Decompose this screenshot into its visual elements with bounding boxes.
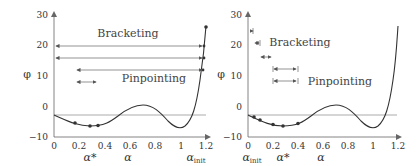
x-axis-arrow-icon <box>396 134 402 140</box>
marker <box>258 118 262 122</box>
alpha-star-label: α* <box>84 151 97 164</box>
bracketing-label: Bracketing <box>269 36 330 49</box>
y-axis-label: φ <box>217 68 225 81</box>
xtick: 0.4 <box>98 141 113 151</box>
marker <box>88 124 92 128</box>
right-chart: 30 20 10 0 −10 0 0.2 0.4 0.6 0.8 1 1.2 φ… <box>217 10 405 165</box>
ytick: 30 <box>37 10 49 20</box>
xtick: 0.6 <box>316 141 331 151</box>
marker <box>204 25 208 29</box>
xtick: 1 <box>178 141 184 151</box>
marker <box>202 69 205 72</box>
alpha-init-label: αinit <box>242 151 261 165</box>
xtick: 1 <box>370 141 376 151</box>
alpha-init-label: αinit <box>186 151 205 165</box>
x-axis-label: α <box>124 151 132 164</box>
marker <box>203 45 206 48</box>
figure: 30 20 10 0 −10 0 0.2 0.4 0.6 0.8 1 1.2 φ… <box>0 0 419 166</box>
y-axis-arrow-icon <box>51 11 57 17</box>
xtick: 0.6 <box>123 141 138 151</box>
marker <box>252 115 256 119</box>
marker <box>281 124 285 128</box>
marker <box>203 57 206 60</box>
ytick: −10 <box>223 132 242 142</box>
xtick: 1.2 <box>391 141 405 151</box>
xtick: 0 <box>51 141 57 151</box>
xtick: 0.2 <box>72 141 86 151</box>
xtick: 0.8 <box>341 141 356 151</box>
ytick: 0 <box>42 102 48 112</box>
ytick: 0 <box>236 102 242 112</box>
pinpointing-label: Pinpointing <box>308 75 372 88</box>
marker <box>296 122 300 126</box>
marker <box>271 123 275 127</box>
bracketing-label: Bracketing <box>97 27 158 40</box>
x-axis-arrow-icon <box>205 134 211 140</box>
marker <box>73 121 77 125</box>
pinpointing-label: Pinpointing <box>122 72 186 85</box>
xtick: 1.2 <box>199 141 213 151</box>
ytick: 20 <box>231 40 243 50</box>
xtick: 0.4 <box>291 141 306 151</box>
xtick: 0.2 <box>266 141 280 151</box>
ytick: −10 <box>29 132 48 142</box>
ytick: 10 <box>231 71 243 81</box>
ytick: 20 <box>37 40 49 50</box>
xtick: 0 <box>245 141 251 151</box>
y-axis-label: φ <box>23 68 31 81</box>
y-axis-arrow-icon <box>245 11 251 17</box>
ytick: 10 <box>37 71 49 81</box>
ytick: 30 <box>231 10 243 20</box>
xtick: 0.8 <box>148 141 163 151</box>
left-chart: 30 20 10 0 −10 0 0.2 0.4 0.6 0.8 1 1.2 φ… <box>23 10 213 165</box>
marker <box>96 124 100 128</box>
x-axis-label: α <box>317 151 325 164</box>
alpha-star-label: α* <box>277 151 290 164</box>
